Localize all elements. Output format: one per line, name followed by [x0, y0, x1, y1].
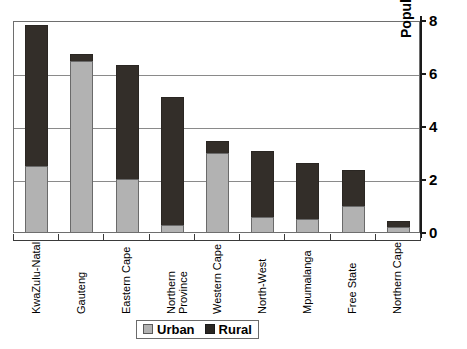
- x-axis-line: [13, 240, 421, 241]
- bar-segment-rural: [251, 151, 274, 217]
- y-tick-label-8: 8: [429, 13, 437, 28]
- population-stacked-bar-chart: 02468 Population (millions) KwaZulu-Nata…: [0, 0, 467, 349]
- bar-segment-urban: [387, 227, 410, 232]
- x-tick-label-northern-province-line2: Province: [177, 244, 189, 314]
- legend-swatch-rural-icon: [205, 324, 215, 334]
- x-tick-3: [149, 234, 150, 241]
- bar-northern-cape[interactable]: [387, 221, 410, 232]
- bar-segment-urban: [116, 179, 139, 232]
- bar-segment-urban: [342, 206, 365, 233]
- bar-north-west[interactable]: [251, 151, 274, 232]
- bar-northern-province[interactable]: [161, 97, 184, 232]
- y-tick-label-2: 2: [429, 172, 437, 187]
- y-tick-4: [420, 126, 426, 128]
- bar-segment-urban: [70, 61, 93, 232]
- bar-segment-urban: [161, 225, 184, 232]
- bar-segment-rural: [296, 163, 319, 219]
- bar-gauteng[interactable]: [70, 54, 93, 232]
- x-tick-0: [13, 234, 14, 241]
- x-tick-label-kwazulu-natal: KwaZulu-Natal: [30, 244, 42, 314]
- bar-free-state[interactable]: [342, 170, 365, 232]
- bar-segment-urban: [206, 153, 229, 233]
- x-tick-label-northern-province-line1: Northern: [165, 244, 177, 314]
- x-tick-8: [375, 234, 376, 241]
- x-tick-5: [239, 234, 240, 241]
- legend-item-urban[interactable]: Urban: [143, 323, 195, 336]
- y-tick-2: [420, 179, 426, 181]
- legend-swatch-urban-icon: [143, 324, 153, 334]
- bar-mpumalanga[interactable]: [296, 163, 319, 232]
- x-tick-label-eastern-cape: Eastern Cape: [120, 244, 132, 314]
- bar-segment-urban: [25, 166, 48, 232]
- legend-label-urban: Urban: [157, 323, 195, 336]
- bar-segment-rural: [25, 25, 48, 165]
- bar-segment-rural: [116, 65, 139, 179]
- legend-item-rural[interactable]: Rural: [205, 323, 252, 336]
- x-tick-label-gauteng: Gauteng: [75, 244, 87, 314]
- bar-segment-rural: [206, 141, 229, 153]
- y-tick-label-0: 0: [429, 225, 437, 240]
- x-tick-label-north-west: North-West: [256, 244, 268, 314]
- y-tick-8: [420, 20, 426, 22]
- x-tick-9: [420, 234, 421, 241]
- x-tick-2: [103, 234, 104, 241]
- bar-segment-rural: [342, 170, 365, 206]
- x-tick-1: [58, 234, 59, 241]
- x-tick-label-western-cape: Western Cape: [211, 244, 223, 314]
- legend-label-rural: Rural: [219, 323, 252, 336]
- y-tick-6: [420, 73, 426, 75]
- legend: Urban Rural: [136, 320, 259, 339]
- bar-western-cape[interactable]: [206, 141, 229, 232]
- y-tick-label-6: 6: [429, 66, 437, 81]
- plot-area: [13, 21, 420, 233]
- x-tick-4: [194, 234, 195, 241]
- x-tick-7: [330, 234, 331, 241]
- y-axis-title: Population (millions): [398, 0, 414, 38]
- x-tick-label-mpumalanga: Mpumalanga: [301, 244, 313, 314]
- bar-segment-urban: [251, 217, 274, 232]
- bar-kwazulu-natal[interactable]: [25, 25, 48, 232]
- bar-segment-rural: [70, 54, 93, 61]
- x-tick-label-northern-cape: Northern Cape: [391, 244, 403, 314]
- bar-segment-rural: [161, 97, 184, 226]
- x-tick-6: [284, 234, 285, 241]
- x-tick-label-free-state: Free State: [346, 244, 358, 314]
- y-tick-label-4: 4: [429, 119, 437, 134]
- bar-eastern-cape[interactable]: [116, 65, 139, 232]
- bar-segment-urban: [296, 219, 319, 232]
